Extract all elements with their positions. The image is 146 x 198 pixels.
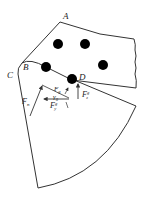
dot-4 — [41, 62, 51, 72]
lower-sector-outline — [18, 63, 136, 188]
force-fg-small-arrow — [65, 88, 68, 94]
dot-5 — [67, 74, 77, 84]
dot-2 — [80, 39, 90, 49]
force-fn-arrow — [30, 86, 42, 116]
label-fn: Fn — [21, 97, 30, 107]
dot-1 — [53, 39, 63, 49]
label-fy: Fgy — [49, 101, 58, 111]
label-point-d: D — [78, 72, 86, 82]
dot-3 — [98, 60, 108, 70]
mechanics-diagram: A B C D Fn Fg γ0 Fgz Fgy — [0, 0, 146, 198]
label-point-a: A — [62, 11, 69, 21]
label-point-c: C — [7, 70, 14, 80]
force-fy-tick — [66, 102, 68, 108]
label-point-b: B — [23, 62, 29, 72]
label-fz: Fgz — [81, 90, 90, 100]
